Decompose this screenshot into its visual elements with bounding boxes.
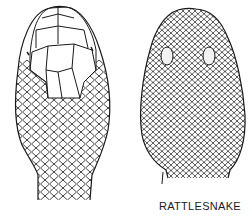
rattlesnake-caption: RATTLESNAKE — [150, 200, 250, 212]
rattlesnake-head — [135, 5, 250, 185]
right-eye-icon — [203, 47, 215, 65]
snake-heads-illustration — [0, 0, 252, 224]
left-eye-icon — [161, 47, 173, 65]
left-snake-head — [10, 6, 120, 205]
